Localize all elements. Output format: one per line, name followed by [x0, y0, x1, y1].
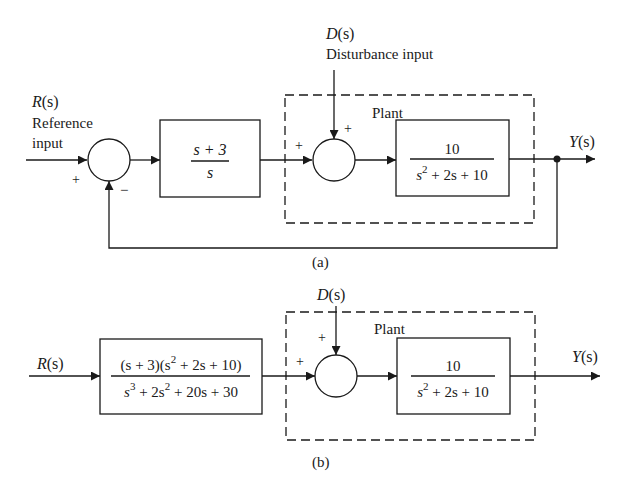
plant-numerator-b: 10	[446, 358, 461, 374]
block-diagram: R(s) Reference input + − s + 3 s + D(s) …	[0, 0, 632, 495]
output-signal-label-b: Y(s)	[572, 348, 598, 366]
reference-label-line2: input	[32, 135, 64, 151]
controller-block	[160, 120, 260, 197]
controller-denominator: s	[207, 164, 213, 181]
sum1-minus-sign: −	[120, 182, 128, 198]
sum2-plus-sign-disturbance: +	[344, 121, 352, 136]
caption-b: (b)	[312, 454, 330, 471]
diagram-b: R(s) (s + 3)(s2 + 2s + 10) s3 + 2s2 + 20…	[29, 286, 600, 471]
disturbance-label: Disturbance input	[326, 46, 434, 62]
plant-title-b: Plant	[374, 321, 406, 337]
feedback-path	[109, 159, 557, 248]
plant-title: Plant	[372, 105, 404, 121]
plant-denominator-b: s2 + 2s + 10	[417, 380, 489, 400]
diagram-a: R(s) Reference input + − s + 3 s + D(s) …	[26, 25, 595, 271]
plant-numerator: 10	[445, 141, 460, 157]
sum2-plus-sign-input: +	[295, 138, 303, 153]
plant-block	[396, 120, 509, 196]
reference-signal-label: R(s)	[31, 93, 59, 111]
sum-b-plus-sign-input: +	[296, 354, 304, 369]
disturbance-signal-label: D(s)	[325, 25, 354, 43]
disturbance-signal-label-b: D(s)	[316, 286, 345, 304]
summing-junction-2	[313, 139, 355, 181]
sum-b-plus-sign-disturbance: +	[318, 330, 326, 345]
controller-numerator: s + 3	[193, 141, 226, 158]
output-signal-label: Y(s)	[569, 133, 595, 151]
summing-junction-1	[88, 139, 130, 181]
reference-signal-label-b: R(s)	[36, 355, 64, 373]
summing-junction-b	[315, 355, 357, 397]
plant-denominator: s2 + 2s + 10	[416, 163, 488, 183]
prefilter-denominator: s3 + 2s2 + 20s + 30	[124, 380, 238, 400]
reference-label-line1: Reference	[32, 115, 93, 131]
sum1-plus-sign: +	[72, 172, 80, 187]
prefilter-numerator: (s + 3)(s2 + 2s + 10)	[121, 353, 242, 374]
plant-boundary	[285, 95, 534, 223]
caption-a: (a)	[312, 254, 329, 271]
